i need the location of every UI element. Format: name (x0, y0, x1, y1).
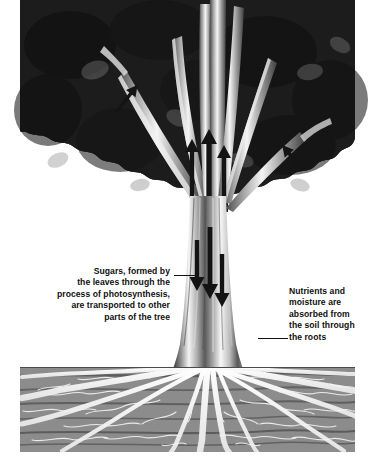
sugars-leader-line (174, 275, 196, 276)
tree-diagram-figure: Sugars, formed by the leaves through the… (0, 0, 375, 467)
sugars-transport-label: Sugars, formed by the leaves through the… (20, 266, 170, 323)
nutrients-leader-line (258, 338, 288, 339)
tree-illustration (0, 0, 375, 467)
nutrients-absorption-label: Nutrients and moisture are absorbed from… (289, 286, 371, 343)
